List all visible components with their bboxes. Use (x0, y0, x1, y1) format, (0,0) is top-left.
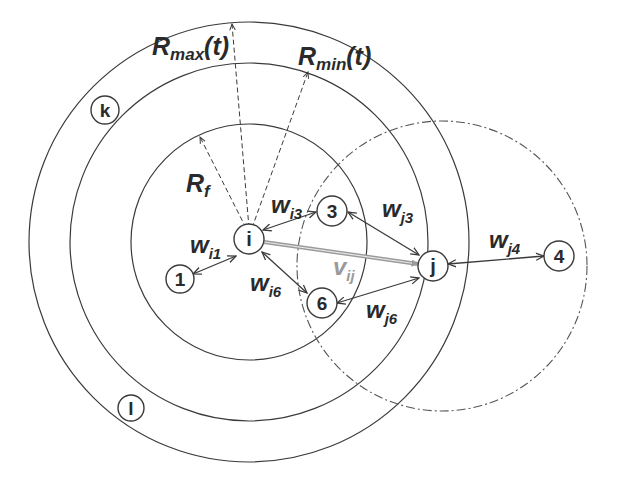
node-l-label: l (128, 398, 133, 419)
edge-label-wi1: wi1 (190, 231, 221, 262)
node-4: 4 (544, 241, 574, 271)
edge-label-wj3: wj3 (382, 195, 414, 226)
node-i: i (234, 224, 264, 254)
rmax-radius-arrow (232, 24, 249, 228)
node-1: 1 (166, 265, 194, 293)
node-6: 6 (307, 288, 337, 318)
node-k-label: k (100, 100, 111, 121)
node-1-label: 1 (175, 269, 186, 290)
node-3-label: 3 (327, 201, 338, 222)
rf-label: Rf (186, 169, 212, 201)
rmin-label: Rmin(t) (298, 42, 371, 74)
network-diagram: i j k l 1 3 4 6 Rmax(t) Rmin(t) Rf wi1 w… (0, 0, 619, 481)
edge-j-4 (448, 256, 544, 264)
diagram-canvas: i j k l 1 3 4 6 Rmax(t) Rmin(t) Rf wi1 w… (0, 0, 619, 481)
node-4-label: 4 (554, 246, 565, 267)
edge-label-vij: vij (333, 253, 356, 284)
edge-label-wi6: wi6 (250, 269, 282, 300)
node-j-label: j (429, 255, 436, 277)
node-i-label: i (246, 228, 252, 250)
rmax-label: Rmax(t) (152, 32, 229, 64)
node-l: l (118, 395, 144, 421)
node-k: k (91, 96, 119, 124)
node-j: j (418, 251, 448, 281)
edge-label-wj4: wj4 (489, 226, 521, 257)
node-6-label: 6 (317, 293, 328, 314)
node-3: 3 (317, 196, 347, 226)
edge-label-wj6: wj6 (366, 296, 398, 327)
edge-label-wi3: wi3 (271, 191, 303, 222)
